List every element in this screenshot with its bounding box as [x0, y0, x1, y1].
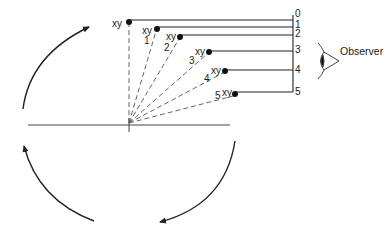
ray-index-4: 4: [204, 74, 210, 84]
arc-lower-right: [160, 141, 235, 222]
scale-label-0: 0: [295, 9, 301, 19]
diagram-canvas: [0, 0, 392, 236]
point-label-5: xy: [222, 88, 232, 98]
ray-index-5: 5: [215, 91, 221, 101]
ray-index-2: 2: [164, 43, 170, 53]
ray-index-1: 1: [144, 36, 150, 46]
point-5: [232, 91, 238, 97]
scale-label-5: 5: [295, 87, 301, 97]
point-label-4: xy: [211, 66, 221, 76]
arc-lower-left: [24, 146, 94, 221]
observer-label: Observer: [340, 46, 383, 57]
eye-icon: [318, 43, 339, 79]
point-0: [126, 19, 132, 25]
point-2: [177, 34, 183, 40]
scale-label-2: 2: [295, 29, 301, 39]
point-4: [222, 68, 228, 74]
arc-upper-left: [23, 27, 89, 109]
scale-label-3: 3: [295, 45, 301, 55]
point-1: [154, 26, 160, 32]
point-label-3: xy: [195, 47, 205, 57]
scale-label-4: 4: [295, 65, 301, 75]
point-label-0: xy: [112, 19, 122, 29]
point-label-2: xy: [166, 32, 176, 42]
point-3: [206, 49, 212, 55]
ray-index-3: 3: [189, 56, 195, 66]
